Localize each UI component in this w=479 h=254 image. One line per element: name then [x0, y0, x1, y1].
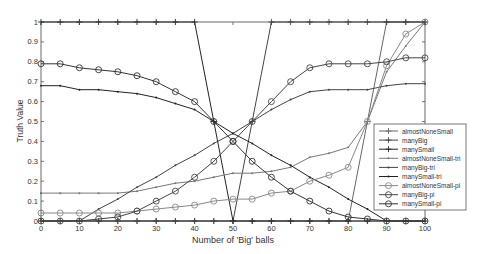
x-tick-label: 30: [152, 224, 160, 233]
legend-label: almostNoneSmall-tri: [402, 155, 461, 162]
y-tick-label: 0.2: [28, 177, 38, 186]
x-tick-label: 80: [344, 224, 352, 233]
legend-label: manyBig-pi: [402, 191, 435, 199]
y-tick-label: 0.6: [28, 97, 38, 106]
x-tick-label: 60: [267, 224, 275, 233]
legend-label: almostNoneSmall-pi: [402, 182, 460, 190]
x-tick-label: 70: [306, 224, 314, 233]
legend: almostNoneSmallmanyBigmanySmallalmostNon…: [374, 124, 466, 210]
y-tick-label: 0.5: [28, 117, 38, 126]
y-tick-label: 0.7: [28, 77, 38, 86]
legend-label: manySmall: [402, 146, 435, 154]
y-tick-label: 0.9: [28, 37, 38, 46]
chart-canvas: 010203040506070809010000.10.20.30.40.50.…: [0, 0, 479, 254]
series-manyBig-tri: [40, 83, 426, 222]
y-tick-label: 0: [34, 217, 38, 226]
y-tick-label: 0.4: [28, 137, 38, 146]
legend-label: manyBig: [402, 137, 428, 145]
x-tick-label: 10: [75, 224, 83, 233]
x-tick-label: 40: [190, 224, 198, 233]
y-tick-label: 0.1: [28, 197, 38, 206]
truth-value-line-chart: 010203040506070809010000.10.20.30.40.50.…: [0, 0, 479, 254]
plot-lines: [38, 19, 428, 224]
series-manySmall-tri: [40, 85, 426, 222]
y-axis-label: Truth Value: [15, 99, 25, 142]
y-tick-label: 0.8: [28, 57, 38, 66]
x-tick-label: 90: [382, 224, 390, 233]
series-almostNoneSmall-pi: [38, 19, 428, 216]
x-tick-label: 0: [39, 224, 43, 233]
legend-label: manySmall-pi: [402, 200, 441, 208]
legend-label: manyBig-tri: [402, 164, 435, 172]
series-almostNoneSmall-tri: [40, 21, 426, 194]
y-tick-label: 0.3: [28, 157, 38, 166]
y-tick-label: 1: [34, 18, 38, 27]
x-tick-label: 100: [419, 224, 432, 233]
legend-label: manySmall-tri: [402, 173, 442, 181]
x-axis-label: Number of 'Big' balls: [192, 235, 274, 245]
x-tick-label: 20: [114, 224, 122, 233]
legend-label: almostNoneSmall: [402, 128, 453, 135]
x-tick-label: 50: [229, 224, 237, 233]
